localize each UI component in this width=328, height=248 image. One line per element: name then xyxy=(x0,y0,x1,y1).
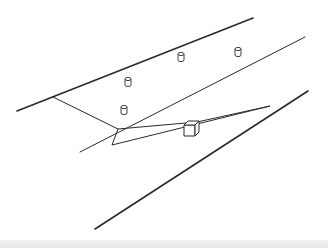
top-boundary-line xyxy=(17,18,253,111)
cylinder-2-icon xyxy=(235,47,241,56)
cube-object xyxy=(184,121,199,136)
cube-front-face xyxy=(184,125,195,136)
cylinder-3-icon xyxy=(125,77,131,86)
cylinder-objects xyxy=(121,47,241,114)
bottom-band xyxy=(0,240,328,248)
crossing-line xyxy=(53,97,118,129)
cylinder-4-icon xyxy=(121,105,127,114)
cylinder-1-icon xyxy=(178,52,184,61)
diagram-canvas xyxy=(0,0,328,248)
road-lines xyxy=(17,18,308,229)
